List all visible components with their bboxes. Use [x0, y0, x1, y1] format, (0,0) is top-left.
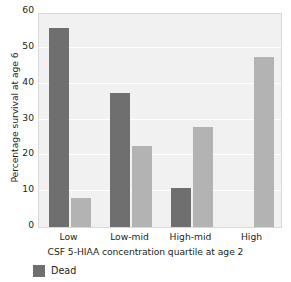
x-axis-tick: Low-mid	[110, 231, 149, 242]
y-axis-tick: 0	[0, 220, 34, 229]
plot-area	[38, 13, 282, 228]
bar-dead-high-mid	[171, 188, 191, 227]
bar-group	[171, 14, 213, 227]
bar-dead-low	[49, 28, 69, 227]
x-axis-tick: High	[241, 231, 262, 242]
bar-group	[110, 14, 152, 227]
x-axis-tick-labels: LowLow-midHigh-midHigh	[38, 231, 282, 245]
bar-alive-low-mid	[132, 146, 152, 227]
bar-series-container	[39, 14, 281, 227]
bar-alive-low	[71, 198, 91, 227]
y-axis-tick: 20	[0, 149, 34, 158]
y-axis-tick-labels: 0102030405060	[0, 10, 34, 228]
bar-group	[232, 14, 274, 227]
bar-alive-high-mid	[193, 127, 213, 227]
legend-swatch-icon	[33, 265, 45, 277]
legend-label: Dead	[51, 265, 76, 277]
x-axis-label: CSF 5-HIAA concentration quartile at age…	[0, 246, 291, 257]
bar-group	[49, 14, 91, 227]
y-axis-tick: 60	[0, 5, 34, 14]
y-axis-tick: 40	[0, 77, 34, 86]
bar-dead-low-mid	[110, 93, 130, 227]
bar-alive-high	[254, 57, 274, 227]
legend-item: Dead	[33, 265, 76, 277]
x-axis-tick: High-mid	[170, 231, 212, 242]
y-axis-tick: 30	[0, 113, 34, 122]
x-axis-tick: Low	[59, 231, 77, 242]
chart-legend: Dead	[33, 265, 76, 277]
chart-figure: Percentage survival at age 6 01020304050…	[0, 0, 291, 282]
y-axis-tick: 10	[0, 185, 34, 194]
y-axis-tick: 50	[0, 41, 34, 50]
